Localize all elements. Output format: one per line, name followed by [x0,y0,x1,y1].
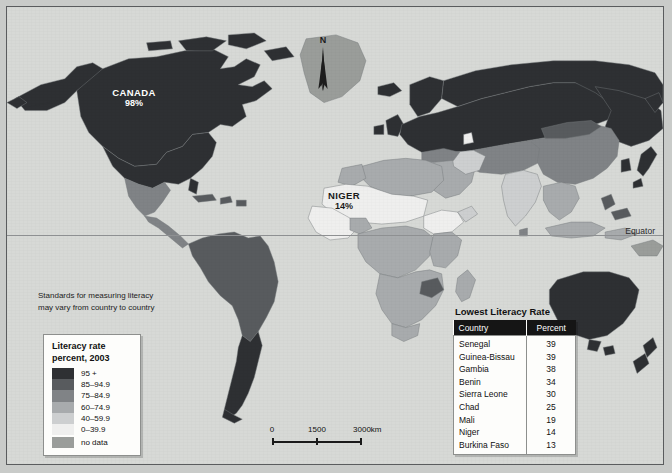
legend-label: 95 + [81,369,97,378]
legend-swatch [52,424,74,435]
legend-swatch [52,402,74,413]
legend-swatch [52,390,74,401]
cell-percent: 34 [527,375,576,388]
cell-country: Benin [454,375,527,388]
scale-bar: 0 1500 3000 km [272,425,392,445]
table-row: Chad25 [454,401,576,414]
table-row: Guinea-Bissau39 [454,350,576,363]
table-row: Sierra Leone30 [454,388,576,401]
scale-tick-3000: 3000 [353,425,371,434]
table-body: Senegal39Guinea-Bissau39Gambia38Benin34S… [454,336,576,455]
legend-entry: 40–59.9 [52,413,133,424]
legend-label: 75–84.9 [81,391,110,400]
north-arrow-letter: N [312,35,334,45]
cell-percent: 25 [527,401,576,414]
equator-label: Equator [625,226,655,236]
scale-unit: km [371,425,382,434]
legend-entry: 85–94.9 [52,379,133,390]
table-header: Country Percent [454,320,576,336]
table-row: Gambia38 [454,363,576,376]
table-row: Senegal39 [454,336,576,351]
cell-percent: 30 [527,388,576,401]
legend-swatch [52,413,74,424]
cell-percent: 13 [527,438,576,454]
legend-entries: 95 +85–94.975–84.960–74.940–59.90–39.9no… [52,368,133,448]
map-legend: Literacy rate percent, 2003 95 +85–94.97… [43,334,141,456]
table-row: Niger14 [454,426,576,439]
lowest-literacy-table-wrap: Lowest Literacy Rate Country Percent Sen… [453,306,576,455]
cell-percent: 19 [527,413,576,426]
legend-entry: 0–39.9 [52,424,133,435]
legend-swatch [52,368,74,379]
legend-swatch [52,437,74,448]
cell-country: Gambia [454,363,527,376]
legend-label: 40–59.9 [81,414,110,423]
equator-line [7,235,663,236]
legend-label: 85–94.9 [81,380,110,389]
map-frame: .c95{fill:#2e3033}.c85{fill:#585b5e}.c75… [6,6,664,465]
scale-bar-labels: 0 1500 3000 km [272,425,392,437]
legend-title-line1: Literacy rate [52,341,106,351]
legend-entry: no data [52,437,133,448]
cell-country: Burkina Faso [454,438,527,454]
legend-entry: 75–84.9 [52,390,133,401]
table-row: Benin34 [454,375,576,388]
scale-tick-1500: 1500 [308,425,326,434]
map-page: .c95{fill:#2e3033}.c85{fill:#585b5e}.c75… [0,0,672,473]
cell-percent: 38 [527,363,576,376]
cell-percent: 39 [527,336,576,351]
cell-country: Senegal [454,336,527,351]
cell-country: Chad [454,401,527,414]
legend-entry: 60–74.9 [52,402,133,413]
legend-title: Literacy rate percent, 2003 [52,341,133,364]
table-row: Burkina Faso13 [454,438,576,454]
cell-percent: 14 [527,426,576,439]
legend-entry: 95 + [52,368,133,379]
column-header-country: Country [454,320,527,336]
legend-label: 0–39.9 [81,425,105,434]
table-row: Mali19 [454,413,576,426]
standards-note: Standards for measuring literacy may var… [38,290,166,313]
cell-percent: 39 [527,350,576,363]
cell-country: Guinea-Bissau [454,350,527,363]
table-title: Lowest Literacy Rate [455,306,576,317]
scale-tick-0: 0 [270,425,274,434]
legend-title-line2: percent, 2003 [52,353,110,363]
legend-label: no data [81,438,108,447]
legend-swatch [52,379,74,390]
cell-country: Sierra Leone [454,388,527,401]
map-canvas[interactable]: .c95{fill:#2e3033}.c85{fill:#585b5e}.c75… [7,7,663,464]
legend-label: 60–74.9 [81,403,110,412]
lowest-literacy-table: Country Percent Senegal39Guinea-Bissau39… [453,320,576,455]
table-header-row: Country Percent [454,320,576,336]
cell-country: Niger [454,426,527,439]
scale-bar-graphic [272,438,392,445]
north-arrow: N [312,35,334,93]
cell-country: Mali [454,413,527,426]
column-header-percent: Percent [527,320,576,336]
compass-needle-icon [316,47,330,91]
